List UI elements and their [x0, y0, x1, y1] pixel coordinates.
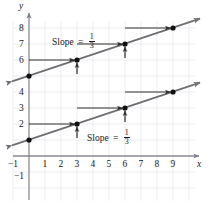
lower-slope-fraction: 1 3: [124, 129, 130, 146]
x-tick-8: 8: [155, 160, 160, 170]
y-tick-neg1: −1: [14, 172, 24, 182]
lower-slope-denominator: 3: [124, 138, 130, 146]
lower-point-0: [26, 137, 31, 142]
x-tick-5: 5: [107, 160, 112, 170]
lower-slope-word: Slope: [87, 133, 109, 143]
y-tick-6: 6: [19, 56, 24, 66]
x-tick-4: 4: [91, 160, 96, 170]
upper-slope-annotation: Slope = 1 3: [52, 33, 95, 50]
x-tick-7: 7: [139, 160, 144, 170]
y-tick-3: 3: [19, 104, 24, 114]
upper-point-0: [26, 73, 31, 78]
upper-point-3: [170, 25, 175, 30]
graph-figure: y x 8 7 6 4 3 2 −1 −1 1 2 3 4 5 6 7 8 9 …: [0, 0, 209, 209]
x-tick-3: 3: [75, 160, 80, 170]
upper-slope-word: Slope: [52, 37, 74, 47]
lower-slope-annotation: Slope = 1 3: [87, 129, 130, 146]
lower-point-2: [122, 105, 127, 110]
y-tick-8: 8: [19, 24, 24, 34]
x-tick-2: 2: [59, 160, 64, 170]
upper-point-1: [74, 57, 79, 62]
upper-slope-denominator: 3: [89, 42, 95, 50]
upper-point-2: [122, 41, 127, 46]
y-tick-2: 2: [19, 120, 24, 130]
lower-slope-equals: =: [113, 133, 118, 143]
x-tick-6: 6: [123, 160, 128, 170]
upper-slope-equals: =: [78, 37, 83, 47]
lower-point-3: [170, 89, 175, 94]
x-tick-9: 9: [171, 160, 176, 170]
lower-point-1: [74, 121, 79, 126]
y-tick-7: 7: [19, 40, 24, 50]
y-tick-4: 4: [19, 88, 24, 98]
grid-lines: [13, 21, 196, 201]
x-tick-1: 1: [43, 160, 48, 170]
upper-slope-fraction: 1 3: [89, 33, 95, 50]
x-axis-label: x: [197, 160, 201, 170]
x-tick-neg1: −1: [8, 160, 18, 170]
coordinate-plane: [0, 0, 209, 209]
y-axis-label: y: [19, 2, 23, 12]
